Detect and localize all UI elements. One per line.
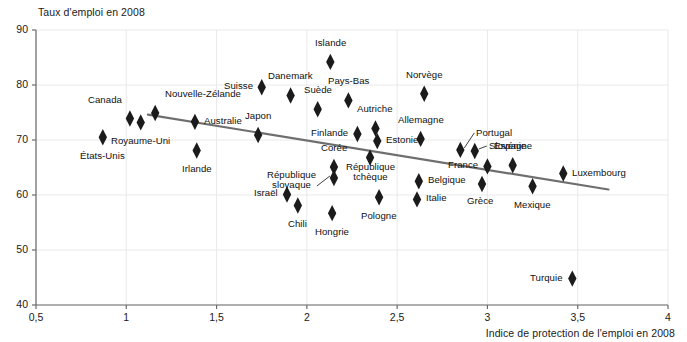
x-tick-label: 1 <box>109 311 143 323</box>
point-label: Estonie <box>386 135 418 145</box>
point-label: Portugal <box>476 128 512 138</box>
point-label: Chili <box>288 219 307 229</box>
point-label: Canada <box>88 95 122 105</box>
point-label: Mexique <box>514 200 551 210</box>
x-tick-label: 4 <box>651 311 685 323</box>
point-label: Luxembourg <box>572 168 626 178</box>
point-label: Turquie <box>530 273 563 283</box>
point-label: Suède <box>304 85 332 95</box>
scatter-chart: Taux d'emploi en 2008 Indice de protecti… <box>0 0 687 342</box>
point-label: Hongrie <box>315 227 349 237</box>
point-label: Autriche <box>357 104 393 114</box>
y-tick-label: 60 <box>6 188 28 200</box>
point-label: Royaume-Uni <box>111 136 170 146</box>
y-tick-label: 50 <box>6 243 28 255</box>
x-tick-label: 0,5 <box>19 311 53 323</box>
x-tick-label: 3 <box>470 311 504 323</box>
y-tick-label: 80 <box>6 78 28 90</box>
point-label: Suisse <box>224 81 253 91</box>
point-label: Espagne <box>494 141 532 151</box>
point-label: Pays-Bas <box>328 76 369 86</box>
point-label: Islande <box>315 38 346 48</box>
point-label: Corée <box>321 143 347 153</box>
point-label: Irlande <box>182 164 212 174</box>
point-label: Allemagne <box>398 115 444 125</box>
point-label: Belgique <box>428 175 466 185</box>
y-tick-label: 40 <box>6 298 28 310</box>
x-tick-label: 2 <box>290 311 324 323</box>
point-label: Norvège <box>406 70 443 80</box>
x-tick-label: 1,5 <box>200 311 234 323</box>
point-label: Australie <box>204 116 242 126</box>
point-label: Finlande <box>311 128 348 138</box>
point-label: Italie <box>426 193 447 203</box>
point-label: France <box>448 160 478 170</box>
y-tick-label: 70 <box>6 133 28 145</box>
point-label: États-Unis <box>80 151 125 161</box>
point-label: Pologne <box>361 211 397 221</box>
x-tick-label: 2,5 <box>380 311 414 323</box>
point-label: Grèce <box>467 196 493 206</box>
point-label: Danemark <box>268 71 313 81</box>
y-tick-label: 90 <box>6 23 28 35</box>
point-label: Israël <box>254 188 278 198</box>
point-label: Républiquetchèque <box>346 162 395 183</box>
point-label: Japon <box>245 111 271 121</box>
x-tick-label: 3,5 <box>561 311 595 323</box>
